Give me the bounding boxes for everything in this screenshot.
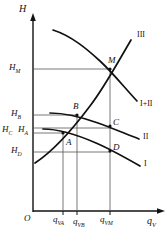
y-tick-label-HM: HM (9, 63, 20, 75)
horizontal-guide-lines (33, 69, 111, 152)
point-C (108, 124, 111, 127)
point-label-A: A (66, 138, 72, 147)
point-label-M: M (108, 56, 116, 65)
point-label-B: B (73, 102, 79, 111)
point-B (75, 113, 78, 116)
pump-system-characteristic-diagram: H qV O HM HB HC HA HD qVA qVB qVM M B C … (0, 0, 168, 237)
curve-label-I: I (144, 160, 147, 168)
y-axis-arrow (30, 13, 36, 21)
y-axis-label: H (19, 4, 26, 14)
point-A (61, 131, 64, 134)
point-label-D: D (113, 143, 120, 152)
point-label-C: C (113, 118, 119, 127)
point-M (108, 67, 111, 70)
curve-label-I-plus-II: I+II (140, 100, 153, 108)
x-axis-label: qV (147, 216, 156, 228)
point-D (108, 149, 111, 152)
y-tick-label-HA: HA (18, 125, 28, 137)
y-tick-label-HC: HC (2, 125, 12, 137)
curve-label-III: III (137, 31, 145, 39)
curve-I-plus-II (53, 30, 137, 101)
x-tick-label-qVB: qVB (73, 217, 85, 229)
x-axis-arrow (157, 208, 165, 213)
curve-label-II: II (143, 133, 148, 141)
y-tick-label-HD: HD (11, 146, 22, 158)
y-tick-label-HB: HB (11, 109, 21, 121)
x-tick-label-qVM: qVM (100, 215, 113, 227)
origin-label: O (24, 214, 31, 223)
x-tick-label-qVA: qVA (53, 215, 64, 227)
